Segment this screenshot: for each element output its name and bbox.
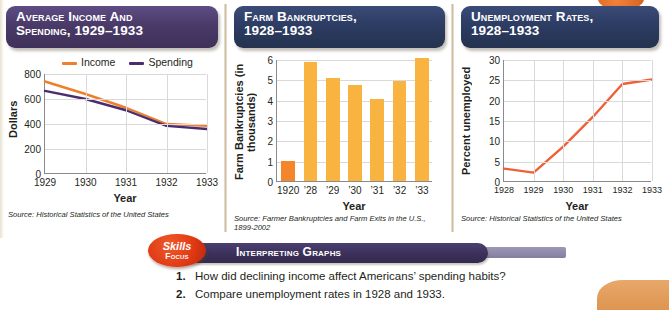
legend-item-spending: Spending xyxy=(129,56,192,68)
gridline-h xyxy=(504,162,651,163)
chart-2-y-tick: 6 xyxy=(267,55,273,66)
interpreting-graphs-banner: Interpreting Graphs xyxy=(176,243,488,263)
chart-2-source-line1: Source: Farmer Bankruptcies and Farm Exi… xyxy=(234,214,426,223)
question-1-text: How did declining income affect American… xyxy=(195,268,506,286)
chart-1-y-axis-title: Dollars xyxy=(8,82,22,156)
legend-swatch-income xyxy=(62,62,77,65)
question-2-number: 2. xyxy=(176,286,189,304)
legend-label-income: Income xyxy=(81,56,115,68)
panel-farm-bankruptcies: Farm Bankruptcies, 1928–1933 Farm Bankru… xyxy=(228,0,455,238)
chart-2-x-tick: ’29 xyxy=(326,185,339,196)
chart-2-x-tick: ’31 xyxy=(371,185,384,196)
chart-2-source: Source: Farmer Bankruptcies and Farm Exi… xyxy=(234,214,450,233)
chart-1-x-tick: 1929 xyxy=(34,177,56,188)
chart-1-plot-area: 020040060080019291930193119321933 xyxy=(44,74,206,174)
panel-average-income-and-spending: Average Income and Spending, 1929–1933 I… xyxy=(0,0,228,238)
chart-2-y-axis-title: Farm Bankruptcies (in thousands) xyxy=(234,62,260,182)
chart-2-x-tick: 1920 xyxy=(277,185,299,196)
chart-3-x-tick: 1933 xyxy=(642,185,662,195)
chart-2-x-tick: ’33 xyxy=(415,185,428,196)
gridline-v xyxy=(167,74,168,173)
chart-2-x-tick: ’32 xyxy=(393,185,406,196)
gridline-v xyxy=(593,60,594,181)
panel-3-title-line2: 1928–1933 xyxy=(471,24,659,38)
panel-1-title-line1: Average Income and xyxy=(16,10,218,24)
panel-3-title-line1: Unemployment Rates, xyxy=(471,10,659,24)
chart-3-y-tick: 30 xyxy=(489,55,500,66)
skills-focus-badge: Skills Focus xyxy=(148,234,206,267)
chart-2-y-axis-title-line1: Farm Bankruptcies xyxy=(233,80,245,180)
chart-1-y-tick: 600 xyxy=(24,94,41,105)
chart-3-source: Source: Historical Statistics of the Uni… xyxy=(461,214,667,223)
banner-tail-decoration xyxy=(476,247,566,258)
chart-3-y-tick: 20 xyxy=(489,95,500,106)
chart-1-y-tick: 400 xyxy=(24,119,41,130)
chart-2-y-tick: 2 xyxy=(267,136,273,147)
chart-3-x-tick: 1932 xyxy=(612,185,632,195)
chart-3-y-tick: 15 xyxy=(489,116,500,127)
chart-2-bar xyxy=(370,99,384,181)
gridline-h xyxy=(504,80,651,81)
panel-divider-1 xyxy=(224,4,227,232)
bottom-right-decoration xyxy=(597,280,669,310)
gridline-h xyxy=(504,141,651,142)
gridline-h xyxy=(504,101,651,102)
chart-2-bar xyxy=(393,81,407,181)
panel-divider-2 xyxy=(451,4,454,232)
chart-3-x-tick: 1930 xyxy=(553,185,573,195)
gridline-h xyxy=(504,121,651,122)
gridline-v xyxy=(86,74,87,173)
chart-2-bar xyxy=(281,161,295,181)
skills-badge-line2: Focus xyxy=(165,252,189,261)
chart-1-legend: Income Spending xyxy=(62,56,193,68)
chart-2-y-tick: 3 xyxy=(267,116,273,127)
chart-1-x-tick: 1930 xyxy=(74,177,96,188)
chart-2-bar xyxy=(304,62,318,181)
gridline-h xyxy=(504,60,651,61)
chart-2-y-tick: 5 xyxy=(267,75,273,86)
legend-item-income: Income xyxy=(62,56,115,68)
gridline-v xyxy=(622,60,623,181)
gridline-v xyxy=(126,74,127,173)
chart-2-x-tick: ’28 xyxy=(304,185,317,196)
question-item: 2. Compare unemployment rates in 1928 an… xyxy=(176,286,596,304)
chart-2-y-tick: 0 xyxy=(267,177,273,188)
chart-1-x-axis-title: Year xyxy=(44,192,206,204)
chart-3-y-axis-title: Percent unemployed xyxy=(461,62,475,180)
gridline-h xyxy=(277,80,432,81)
chart-3-x-axis-title: Year xyxy=(495,200,659,212)
chart-2-bar xyxy=(326,78,340,181)
chart-2-y-tick: 4 xyxy=(267,95,273,106)
chart-1-source: Source: Historical Statistics of the Uni… xyxy=(8,210,220,219)
chart-3-x-tick: 1928 xyxy=(494,185,514,195)
chart-1-x-tick: 1932 xyxy=(155,177,177,188)
chart-2-x-tick: ’30 xyxy=(348,185,361,196)
panel-2-title-line1: Farm Bankruptcies, xyxy=(244,10,445,24)
page-root: Average Income and Spending, 1929–1933 I… xyxy=(0,0,669,310)
chart-2-bar xyxy=(415,58,429,181)
panel-unemployment-rates: Unemployment Rates, 1928–1933 Percent un… xyxy=(455,0,669,238)
chart-2-x-axis-title: Year xyxy=(276,200,432,212)
question-2-text: Compare unemployment rates in 1928 and 1… xyxy=(195,286,445,304)
chart-3-y-tick: 10 xyxy=(489,136,500,147)
gridline-v xyxy=(652,60,653,181)
panel-3-header: Unemployment Rates, 1928–1933 xyxy=(461,6,659,48)
panel-2-title-line2: 1928–1933 xyxy=(244,24,445,38)
chart-2-source-line2: 1899-2002 xyxy=(234,223,270,232)
chart-2-bar xyxy=(348,85,362,181)
question-1-number: 1. xyxy=(176,268,189,286)
chart-3-y-tick: 25 xyxy=(489,75,500,86)
chart-3-line-unemployment xyxy=(504,80,652,173)
skills-focus-bar: Interpreting Graphs Skills Focus xyxy=(176,243,566,263)
panel-2-header: Farm Bankruptcies, 1928–1933 xyxy=(234,6,445,48)
panel-1-header: Average Income and Spending, 1929–1933 xyxy=(6,6,218,48)
chart-3-y-tick: 5 xyxy=(494,156,500,167)
chart-3-x-tick: 1929 xyxy=(524,185,544,195)
chart-1-x-tick: 1933 xyxy=(196,177,218,188)
legend-swatch-spending xyxy=(129,62,144,65)
chart-2-y-tick: 1 xyxy=(267,156,273,167)
legend-label-spending: Spending xyxy=(148,56,192,68)
chart-1-y-tick: 800 xyxy=(24,69,41,80)
chart-1-x-tick: 1931 xyxy=(115,177,137,188)
chart-3-x-tick: 1931 xyxy=(583,185,603,195)
